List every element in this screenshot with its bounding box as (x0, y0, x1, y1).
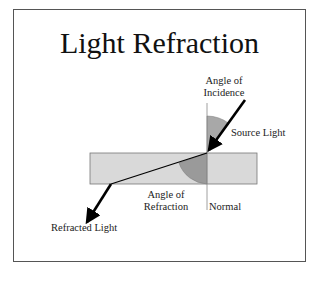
angle-of-refraction-label: Angle of Refraction (138, 189, 194, 213)
angle-of-refraction-line1: Angle of (138, 189, 194, 201)
refracted-light-ray (87, 184, 111, 222)
refracted-light-label: Refracted Light (51, 222, 117, 234)
glass-block (90, 153, 257, 184)
slide-title: Light Refraction (13, 28, 306, 58)
angle-of-incidence-label: Angle of Incidence (196, 75, 252, 99)
angle-of-incidence-line2: Incidence (196, 87, 252, 99)
angle-of-incidence-line1: Angle of (196, 75, 252, 87)
source-light-label: Source Light (231, 127, 286, 139)
normal-label: Normal (209, 201, 241, 213)
angle-of-refraction-line2: Refraction (138, 201, 194, 213)
